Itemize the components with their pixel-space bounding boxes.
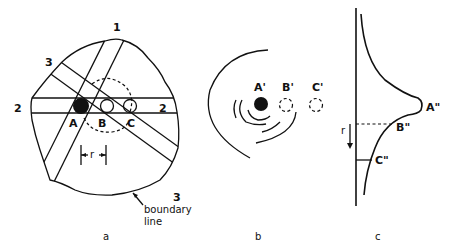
figure-canvas: 1 3 2 2 3 A B C r boundary line a	[0, 0, 451, 241]
distance-label-r: r	[90, 149, 95, 160]
label-c: C	[127, 117, 135, 130]
profile-curve	[361, 14, 422, 195]
point-c-prime-dashed	[310, 99, 323, 112]
arc	[262, 122, 280, 132]
point-b-prime-dashed	[280, 99, 293, 112]
projection-label-2-right: 2	[159, 102, 167, 115]
projection-label-2-left: 2	[14, 102, 22, 115]
panel-c-caption: c	[375, 231, 381, 241]
boundary-label-line1: boundary	[144, 204, 192, 215]
panel-b: A' B' C' b	[208, 50, 323, 241]
point-b-circle	[101, 100, 114, 113]
dashed-arc	[92, 78, 132, 112]
label-c-prime: C'	[312, 81, 323, 94]
panel-a-caption: a	[103, 231, 109, 241]
boundary-label-line2: line	[144, 216, 162, 227]
arc	[248, 110, 270, 120]
label-b: B	[98, 117, 106, 130]
panel-b-caption: b	[255, 231, 261, 241]
point-a-prime-dot	[254, 97, 268, 111]
label-a-double-prime: A"	[426, 101, 440, 114]
panel-a: 1 3 2 2 3 A B C r boundary line a	[14, 21, 192, 241]
label-c-double-prime: C"	[375, 154, 389, 167]
label-b-prime: B'	[282, 81, 294, 94]
label-b-double-prime: B"	[396, 121, 410, 134]
panel-c: r A" B" C" c	[341, 8, 440, 241]
label-a: A	[69, 117, 78, 130]
projection-label-3-top: 3	[45, 56, 53, 69]
r-direction-arrow: r	[341, 124, 353, 149]
projection-label-3-bottom: 3	[173, 191, 181, 204]
arc	[234, 100, 236, 118]
arc	[256, 112, 296, 143]
projection-label-1: 1	[113, 21, 121, 34]
label-a-prime: A'	[254, 81, 266, 94]
axis-label-r: r	[341, 125, 346, 136]
distance-bracket: r	[81, 145, 106, 165]
point-a-dot	[73, 98, 89, 114]
